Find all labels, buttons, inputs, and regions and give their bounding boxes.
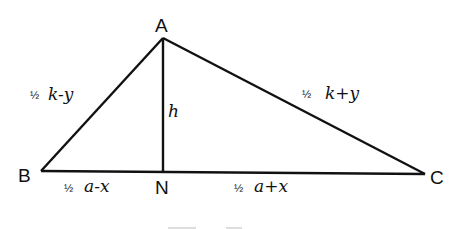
side-ab [41, 38, 163, 171]
side-bn-label: a-x [84, 176, 110, 196]
side-nc-label: a+x [254, 176, 288, 196]
vertex-label-n: N [155, 177, 169, 198]
vertex-label-c: C [430, 167, 444, 188]
side-ac [163, 38, 425, 174]
side-bc [41, 171, 425, 174]
triangle-diagram: A B C N ½ k-y ½ k+y h ½ a-x ½ a+x [0, 0, 456, 229]
altitude-label: h [168, 101, 179, 121]
vertex-label-b: B [18, 165, 31, 186]
side-ab-fraction: ½ [30, 89, 39, 101]
side-bn-fraction: ½ [64, 182, 73, 194]
vertex-label-a: A [155, 15, 168, 36]
side-ac-fraction: ½ [302, 88, 311, 100]
caption-fragment [168, 227, 196, 229]
side-ab-label: k-y [48, 84, 74, 104]
caption-fragment [226, 227, 242, 229]
side-nc-fraction: ½ [234, 182, 243, 194]
side-ac-label: k+y [325, 83, 360, 103]
